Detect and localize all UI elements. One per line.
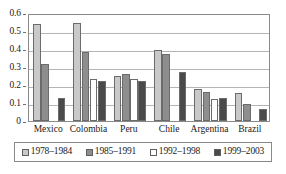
bar <box>98 81 106 121</box>
bar <box>243 104 251 121</box>
bar <box>211 99 219 121</box>
legend-item[interactable]: 1978–1984 <box>22 147 72 157</box>
bar-group <box>110 15 150 121</box>
bar <box>235 93 243 121</box>
legend-swatch-icon <box>150 149 157 156</box>
legend-swatch-icon <box>214 149 221 156</box>
y-axis: 0.60.50.40.30.20.10 <box>0 14 26 122</box>
y-tick-label: 0.4 <box>9 45 21 55</box>
legend-item[interactable]: 1985–1991 <box>86 147 136 157</box>
bar-chart-figure: 0.60.50.40.30.20.10 MexicoColombiaPeruCh… <box>0 0 286 174</box>
legend-swatch-icon <box>86 149 93 156</box>
legend-label: 1978–1984 <box>31 147 72 157</box>
bar <box>203 92 211 121</box>
bar-group <box>150 15 190 121</box>
legend-label: 1999–2003 <box>223 147 264 157</box>
bar <box>162 54 170 121</box>
bar <box>194 89 202 121</box>
bar-group <box>231 15 271 121</box>
y-tick-label: 0.6 <box>9 9 21 19</box>
legend-item[interactable]: 1999–2003 <box>214 147 264 157</box>
y-tick-label: 0 <box>16 117 21 127</box>
y-tick-mark <box>23 104 26 105</box>
plot-area <box>28 14 270 122</box>
y-tick-mark <box>23 86 26 87</box>
legend-label: 1985–1991 <box>95 147 136 157</box>
bar-group <box>190 15 230 121</box>
x-tick-label: Colombia <box>70 124 107 134</box>
y-tick-label: 0.3 <box>9 63 21 73</box>
x-tick-label: Peru <box>120 124 137 134</box>
bar <box>82 52 90 121</box>
bar <box>259 109 267 121</box>
y-tick-mark <box>23 50 26 51</box>
bar <box>90 79 98 121</box>
y-tick-mark <box>23 32 26 33</box>
bars-layer <box>29 15 269 121</box>
bar <box>130 79 138 121</box>
legend-swatch-icon <box>22 149 29 156</box>
legend-item[interactable]: 1992–1998 <box>150 147 200 157</box>
x-tick-label: Chile <box>159 124 180 134</box>
bar-group <box>69 15 109 121</box>
y-tick-label: 0.1 <box>9 99 21 109</box>
x-tick-label: Brazil <box>238 124 261 134</box>
bar <box>179 72 187 121</box>
y-tick-mark <box>23 122 26 123</box>
bar <box>33 24 41 121</box>
bar <box>154 50 162 121</box>
bar-group <box>29 15 69 121</box>
x-tick-label: Mexico <box>34 124 63 134</box>
y-tick-mark <box>23 68 26 69</box>
bar <box>58 98 66 121</box>
x-axis: MexicoColombiaPeruChileArgentinaBrazil <box>28 124 270 138</box>
bar <box>114 76 122 121</box>
x-tick-label: Argentina <box>191 124 229 134</box>
bar <box>122 74 130 121</box>
bar <box>219 98 227 121</box>
bar <box>41 64 49 121</box>
legend-label: 1992–1998 <box>159 147 200 157</box>
y-tick-label: 0.5 <box>9 27 21 37</box>
chart-legend: 1978–19841985–19911992–19981999–2003 <box>14 142 272 162</box>
bar <box>138 81 146 121</box>
bar <box>73 23 81 121</box>
y-tick-mark <box>23 14 26 15</box>
y-tick-label: 0.2 <box>9 81 21 91</box>
